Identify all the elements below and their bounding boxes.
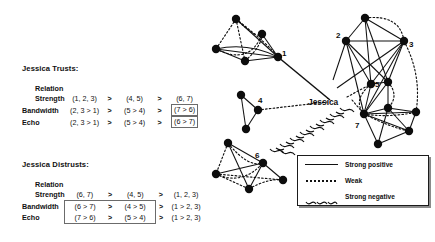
social-network-figure: 1 2 3 4 5 6 7 Jessica Jessica Trusts: Re…: [0, 0, 435, 242]
distrusts-row-label-strength: Strength: [22, 189, 65, 201]
distrusts-table: Strength (6, 7) > (4, 5) > (1, 2, 3) Ban…: [22, 189, 207, 224]
distrusts-strength-sep-2: >: [156, 189, 167, 201]
distrusts-echo-cell-1: (7 > 6): [65, 212, 106, 224]
node-label-5: 5: [375, 80, 380, 89]
distrusts-echo-sep-2: >: [156, 212, 167, 224]
trusts-table: Strength (1, 2, 3) > (4, 5) > (6, 7) Ban…: [22, 93, 205, 128]
trusts-echo-cell-3: (6 > 7): [165, 116, 205, 128]
jessica-trusts-panel: Jessica Trusts: Relation Strength (1, 2,…: [22, 64, 205, 128]
distrusts-bandwidth-cell-1: (6 > 7): [65, 201, 106, 213]
trusts-strength-cell-3: (6, 7): [165, 93, 205, 104]
node-label-7: 7: [355, 121, 360, 130]
node-label-6: 6: [255, 151, 260, 160]
legend-label-weak: Weak: [345, 177, 362, 184]
edge-1-jessica: [278, 57, 330, 100]
distrusts-echo-cell-3: (1 > 2, 3): [166, 212, 206, 224]
distrusts-echo-sep-1: >: [105, 212, 115, 224]
trusts-bandwidth-cell-3: (7 > 6): [165, 104, 205, 116]
trusts-bandwidth-cell-1: (2, 3 > 1): [65, 104, 105, 116]
dotted-line-icon: [305, 176, 338, 186]
distrusts-bandwidth-sep-1: >: [105, 201, 115, 213]
trusts-title: Jessica Trusts:: [22, 64, 205, 73]
table-row: Echo (7 > 6) > (5 > 4) > (1 > 2, 3): [22, 212, 206, 224]
legend-label-strong-positive: Strong positive: [345, 161, 393, 168]
distrusts-title: Jessica Distrusts:: [22, 160, 207, 169]
distrusts-echo-cell-2: (5 > 4): [115, 212, 156, 224]
table-row: Echo (2, 3 > 1) > (5 > 4) > (6 > 7): [22, 116, 205, 128]
cluster-6-edges: [216, 143, 283, 189]
edge-jessica-6-negative-b: [276, 112, 344, 150]
distrusts-strength-cell-2: (4, 5): [115, 189, 156, 201]
trusts-row-label-bandwidth: Bandwidth: [22, 104, 65, 116]
wavy-line-icon: [305, 192, 338, 202]
trusts-strength-sep-1: >: [105, 93, 115, 104]
legend-box: Strong positive Weak Strong negative: [297, 155, 429, 206]
table-row: Bandwidth (6 > 7) > (4 > 5) > (1 > 2, 3): [22, 201, 206, 213]
trusts-strength-cell-1: (1, 2, 3): [65, 93, 105, 104]
trusts-echo-cell-1: (2, 3 > 1): [65, 116, 105, 128]
node-label-3: 3: [409, 40, 414, 49]
node-label-2: 2: [336, 31, 341, 40]
legend-item-strong-negative: Strong negative: [298, 189, 428, 204]
trusts-bandwidth-sep-1: >: [105, 104, 115, 116]
distrusts-bandwidth-sep-2: >: [156, 201, 167, 213]
hub-label-jessica: Jessica: [308, 97, 339, 107]
trusts-row-label-strength: Strength: [22, 93, 65, 104]
trusts-bandwidth-sep-2: >: [155, 104, 165, 116]
trusts-bandwidth-cell-2: (5 > 4): [115, 104, 155, 116]
trusts-echo-sep-1: >: [105, 116, 115, 128]
distrusts-strength-cell-3: (1, 2, 3): [166, 189, 206, 201]
table-row: Strength (1, 2, 3) > (4, 5) > (6, 7): [22, 93, 205, 104]
trusts-echo-cell-2: (5 > 4): [115, 116, 155, 128]
solid-line-icon: [305, 160, 338, 170]
legend-label-strong-negative: Strong negative: [345, 193, 395, 200]
distrusts-row-label-echo: Echo: [22, 212, 65, 224]
trusts-echo-sep-2: >: [155, 116, 165, 128]
distrusts-relation-header: Relation: [35, 180, 207, 189]
distrusts-row-label-bandwidth: Bandwidth: [22, 201, 65, 213]
trusts-row-label-echo: Echo: [22, 116, 65, 128]
distrusts-strength-sep-1: >: [105, 189, 115, 201]
legend-item-weak: Weak: [298, 173, 428, 188]
table-row: Bandwidth (2, 3 > 1) > (5 > 4) > (7 > 6): [22, 104, 205, 116]
table-row: Strength (6, 7) > (4, 5) > (1, 2, 3): [22, 189, 206, 201]
trusts-bandwidth-cell-3-box: (7 > 6): [171, 104, 198, 116]
trusts-relation-header: Relation: [35, 84, 205, 93]
cluster-1-edges: [216, 19, 278, 61]
distrusts-bandwidth-cell-3: (1 > 2, 3): [166, 201, 206, 213]
node-label-4: 4: [258, 96, 263, 105]
distrusts-bandwidth-cell-2: (4 > 5): [115, 201, 156, 213]
trusts-strength-cell-2: (4, 5): [115, 93, 155, 104]
legend-item-strong-positive: Strong positive: [298, 157, 428, 172]
trusts-strength-sep-2: >: [155, 93, 165, 104]
distrusts-strength-cell-1: (6, 7): [65, 189, 106, 201]
node-label-1: 1: [282, 49, 287, 58]
jessica-distrusts-panel: Jessica Distrusts: Relation Strength (6,…: [22, 160, 207, 224]
trusts-echo-cell-3-box: (6 > 7): [171, 116, 198, 128]
